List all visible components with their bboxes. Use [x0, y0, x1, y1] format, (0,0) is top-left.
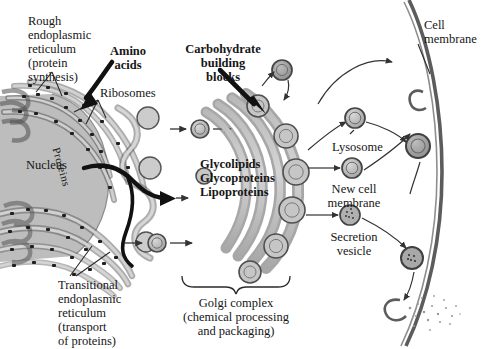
- label-golgi-products: Glycolipids Glycoproteins Lipoproteins: [200, 157, 275, 199]
- label-rough-er: Rough endoplasmic reticulum (protein syn…: [28, 14, 91, 84]
- membrane-fusion-vesicles: [401, 134, 430, 269]
- label-lysosome: Lysosome: [332, 140, 383, 154]
- golgi-brace: [182, 276, 290, 294]
- label-golgi-complex: Golgi complex (chemical processing and p…: [176, 296, 296, 338]
- label-cell-membrane: Cell membrane: [424, 18, 477, 46]
- new-membrane-vesicle: [308, 158, 362, 178]
- cell-membrane: [385, 0, 442, 346]
- label-transitional-er: Transitional endoplasmic reticulum (tran…: [58, 278, 121, 348]
- label-new-cell-membrane: New cell membrane: [318, 182, 390, 210]
- cell-diagram-canvas: Rough endoplasmic reticulum (protein syn…: [0, 0, 495, 349]
- label-secretion-vesicle: Secretion vesicle: [318, 230, 390, 258]
- label-amino-acids: Amino acids: [98, 44, 158, 72]
- label-carbohydrate-blocks: Carbohydrate building blocks: [168, 42, 278, 84]
- label-ribosomes: Ribosomes: [100, 86, 156, 100]
